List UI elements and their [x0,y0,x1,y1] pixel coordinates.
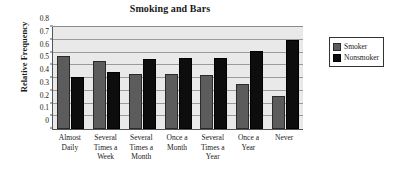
bar-nonsmoker [214,58,227,129]
legend-swatch-smoker [333,43,341,51]
bar-group [232,27,268,129]
x-tick-label-line: Once a [159,133,195,143]
x-tick-label: Never [266,131,302,171]
bar-nonsmoker [71,77,84,129]
bar-smoker [129,74,142,129]
legend-label-smoker: Smoker [344,42,367,51]
bar-group [124,27,160,129]
chart-figure: Smoking and Bars Relative Frequency 00.1… [0,0,411,172]
bar-group [160,27,196,129]
bar-nonsmoker [179,58,192,129]
x-tick-label-line: Times a [195,143,231,153]
bar-smoker [272,96,285,129]
bar-nonsmoker [250,51,263,129]
y-tick-label: 0.6 [25,39,53,48]
x-tick-label: SeveralTimes aWeek [88,131,124,171]
x-tick-label: SeveralTimes aYear [195,131,231,171]
bar-nonsmoker [286,40,299,129]
y-tick-label: 0.4 [25,65,53,74]
x-tick-label-line: Year [231,143,267,153]
x-tick-label-line: Month [123,152,159,162]
y-tick-label: 0.5 [25,52,53,61]
legend-swatch-nonsmoker [333,54,341,62]
plot-area: 00.10.20.30.40.50.60.70.8 [52,27,303,130]
y-tick-label: 0.1 [25,103,53,112]
chart-legend: Smoker Nonsmoker [329,37,384,67]
x-tick-label-line: Several [88,133,124,143]
bar-smoker [165,74,178,129]
y-tick-label: 0.2 [25,90,53,99]
legend-label-nonsmoker: Nonsmoker [344,53,379,62]
bar-group [196,27,232,129]
bar-nonsmoker [107,72,120,129]
legend-item-nonsmoker: Nonsmoker [333,52,379,63]
x-tick-label-line: Month [159,143,195,153]
legend-item-smoker: Smoker [333,41,379,52]
x-tick-label-line: Year [195,152,231,162]
bar-groups [53,27,303,129]
bar-smoker [236,84,249,129]
y-tick-label: 0.8 [25,14,53,23]
x-tick-label-line: Several [123,133,159,143]
y-tick-label: 0 [25,116,53,125]
x-tick-label-line: Almost [52,133,88,143]
x-tick-label-line: Never [266,133,302,143]
bar-smoker [200,75,213,129]
y-tick-label: 0.7 [25,26,53,35]
x-tick-label-line: Week [88,152,124,162]
bar-group [89,27,125,129]
x-tick-label: Once aMonth [159,131,195,171]
x-tick-label-line: Daily [52,143,88,153]
bar-group [53,27,89,129]
x-axis-labels: AlmostDailySeveralTimes aWeekSeveralTime… [52,131,302,171]
x-tick-label: AlmostDaily [52,131,88,171]
chart-title: Smoking and Bars [40,3,300,14]
x-tick-label-line: Several [195,133,231,143]
x-tick-label-line: Once a [231,133,267,143]
x-tick-label: Once aYear [231,131,267,171]
x-tick-label: SeveralTimes aMonth [123,131,159,171]
y-tick-label: 0.3 [25,77,53,86]
bar-nonsmoker [143,59,156,129]
x-tick-label-line: Times a [88,143,124,153]
x-tick-label-line: Times a [123,143,159,153]
bar-smoker [93,61,106,129]
bar-smoker [57,56,70,129]
bar-group [267,27,303,129]
